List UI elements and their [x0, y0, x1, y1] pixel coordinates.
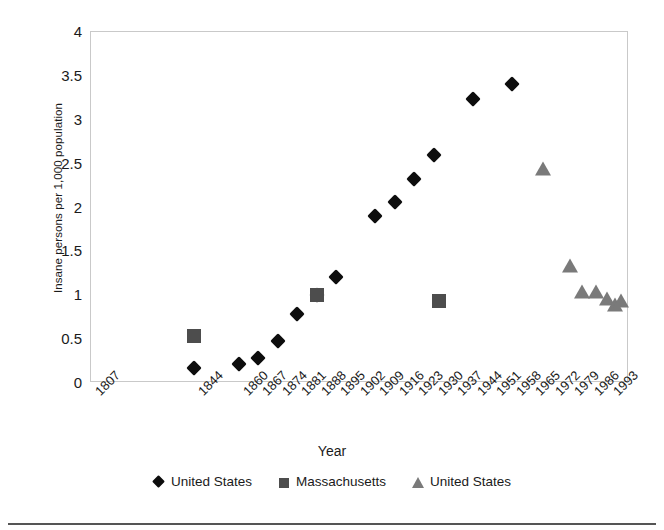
plot-area — [90, 31, 628, 382]
data-point-diamond — [504, 76, 520, 92]
data-point-square — [310, 288, 324, 302]
data-point-diamond — [426, 147, 442, 163]
data-point-diamond — [250, 351, 266, 367]
data-point-diamond — [329, 269, 345, 285]
y-tick-label: 0.5 — [20, 330, 90, 347]
legend-entry[interactable]: United States — [412, 474, 511, 489]
data-point-square — [187, 329, 201, 343]
chart-legend: United StatesMassachusettsUnited States — [0, 474, 664, 489]
data-point-square — [432, 294, 446, 308]
square-marker-icon — [278, 476, 290, 488]
scatter-chart-figure: Insane persons per 1,000 population 00.5… — [0, 0, 664, 530]
legend-label: United States — [171, 474, 252, 489]
legend-entry[interactable]: Massachusetts — [278, 474, 386, 489]
data-point-diamond — [387, 194, 403, 210]
y-tick-label: 4 — [20, 23, 90, 40]
data-point-diamond — [407, 172, 423, 188]
data-point-diamond — [270, 333, 286, 349]
y-tick-label: 2 — [20, 198, 90, 215]
y-tick-label: 0 — [20, 374, 90, 391]
y-tick-label: 2.5 — [20, 154, 90, 171]
data-point-diamond — [231, 356, 247, 372]
y-tick-label: 3.5 — [20, 66, 90, 83]
y-tick-label: 1 — [20, 286, 90, 303]
legend-label: Massachusetts — [296, 474, 386, 489]
footer-divider — [8, 523, 656, 525]
data-point-triangle — [562, 259, 578, 273]
legend-label: United States — [430, 474, 511, 489]
x-axis-title: Year — [0, 443, 664, 459]
data-point-diamond — [465, 91, 481, 107]
plot-markers-layer — [91, 32, 627, 381]
y-tick-label: 1.5 — [20, 242, 90, 259]
x-axis-tick-labels: 1807184418601867187418811888189519021909… — [90, 382, 628, 452]
y-axis-tick-labels: 00.511.522.533.54 — [10, 31, 90, 382]
triangle-marker-icon — [412, 476, 424, 488]
diamond-marker-icon — [153, 476, 165, 488]
data-point-diamond — [368, 208, 384, 224]
data-point-triangle — [535, 161, 551, 175]
y-tick-label: 3 — [20, 110, 90, 127]
data-point-diamond — [289, 306, 305, 322]
legend-entry[interactable]: United States — [153, 474, 252, 489]
data-point-diamond — [186, 360, 202, 376]
data-point-triangle — [613, 294, 629, 308]
